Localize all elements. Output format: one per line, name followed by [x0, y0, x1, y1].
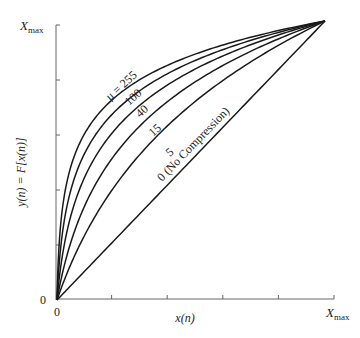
curve-label-15: 15 — [146, 121, 164, 139]
mu-law-compression-chart: μ = 255 100 40 15 5 0 (No Compression) X… — [0, 0, 360, 338]
y-axis-ticks — [56, 80, 60, 245]
x-max-label: Xmax — [325, 305, 350, 322]
x-axis-ticks — [112, 295, 334, 299]
y-axis-label: y(n) = F[x(n)] — [14, 137, 28, 208]
curve-label-no-compression: 0 (No Compression) — [154, 104, 232, 184]
x-axis-label: x(n) — [174, 311, 194, 325]
curves — [57, 21, 325, 300]
y-origin-label: 0 — [40, 293, 46, 307]
x-origin-label: 0 — [54, 305, 60, 319]
y-max-label: Xmax — [19, 18, 44, 35]
